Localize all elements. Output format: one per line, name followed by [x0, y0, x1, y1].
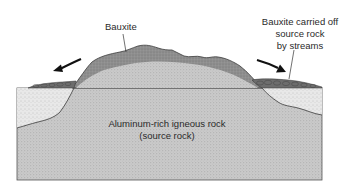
carried-off-leader-line: [289, 50, 294, 79]
bauxite-label: Bauxite: [105, 21, 137, 33]
source-rock-label-line-1: Aluminum-rich igneous rock: [108, 118, 225, 130]
carried-off-label-line-2: source rock: [275, 28, 324, 40]
carried-off-label-line-1: Bauxite carried off: [262, 16, 338, 28]
right-gravel: [252, 79, 322, 88]
left-transport-arrow: [53, 59, 81, 72]
bauxite-leader-line: [123, 34, 126, 52]
carried-off-label-line-3: by streams: [277, 40, 323, 52]
source-rock-label-line-2: (source rock): [139, 130, 194, 142]
left-gravel: [28, 81, 76, 88]
right-transport-arrow: [257, 60, 286, 73]
